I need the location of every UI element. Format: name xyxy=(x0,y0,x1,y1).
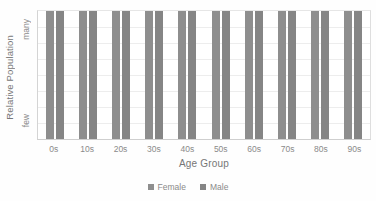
bars-layer xyxy=(38,11,370,139)
x-tick-label-10s: 10s xyxy=(70,142,103,156)
bar-male-30s xyxy=(155,11,163,139)
bar-group xyxy=(71,11,104,139)
bar-group xyxy=(204,11,237,139)
x-tick-label-0s: 0s xyxy=(37,142,70,156)
bar-male-70s xyxy=(288,11,296,139)
y-tick-label-few-text: few xyxy=(21,114,31,127)
legend-item-male[interactable]: Male xyxy=(200,182,228,192)
legend-label-female: Female xyxy=(158,182,186,192)
x-axis-tick-labels: 0s10s20s30s40s50s60s70s80s90s xyxy=(37,142,371,156)
x-tick-label-30s: 30s xyxy=(137,142,170,156)
bar-male-20s xyxy=(122,11,130,139)
bar-female-50s xyxy=(212,11,220,139)
x-axis-title: Age Group xyxy=(37,158,371,169)
bar-female-60s xyxy=(245,11,253,139)
bar-chart: Relative Population many few 0s10s20s30s… xyxy=(0,0,376,201)
bar-female-80s xyxy=(311,11,319,139)
x-tick-label-80s: 80s xyxy=(304,142,337,156)
y-tick-label-many: many xyxy=(19,12,33,46)
bar-male-40s xyxy=(188,11,196,139)
x-tick-label-40s: 40s xyxy=(171,142,204,156)
y-axis-title-text: Relative Population xyxy=(4,35,15,120)
bar-female-70s xyxy=(278,11,286,139)
bar-female-20s xyxy=(112,11,120,139)
bar-male-60s xyxy=(255,11,263,139)
bar-group xyxy=(337,11,370,139)
bar-female-0s xyxy=(46,11,54,139)
bar-female-10s xyxy=(79,11,87,139)
bar-male-80s xyxy=(321,11,329,139)
y-tick-label-many-text: many xyxy=(21,19,31,40)
bar-group xyxy=(38,11,71,139)
legend-item-female[interactable]: Female xyxy=(148,182,186,192)
bar-male-90s xyxy=(354,11,362,139)
chart-legend: FemaleMale xyxy=(0,182,376,192)
bar-group xyxy=(237,11,270,139)
bar-group xyxy=(104,11,137,139)
bar-female-40s xyxy=(178,11,186,139)
legend-label-male: Male xyxy=(210,182,228,192)
y-axis-title: Relative Population xyxy=(2,12,16,142)
bar-male-50s xyxy=(222,11,230,139)
x-tick-label-20s: 20s xyxy=(104,142,137,156)
bar-group xyxy=(138,11,171,139)
x-tick-label-50s: 50s xyxy=(204,142,237,156)
bar-male-10s xyxy=(89,11,97,139)
bar-male-0s xyxy=(56,11,64,139)
bar-group xyxy=(171,11,204,139)
bar-group xyxy=(304,11,337,139)
x-tick-label-90s: 90s xyxy=(338,142,371,156)
x-tick-label-70s: 70s xyxy=(271,142,304,156)
bar-female-30s xyxy=(145,11,153,139)
bar-group xyxy=(270,11,303,139)
y-tick-label-few: few xyxy=(19,106,33,136)
plot-area xyxy=(37,10,371,140)
x-tick-label-60s: 60s xyxy=(237,142,270,156)
bar-female-90s xyxy=(344,11,352,139)
legend-swatch-female-icon xyxy=(148,184,154,190)
legend-swatch-male-icon xyxy=(200,184,206,190)
